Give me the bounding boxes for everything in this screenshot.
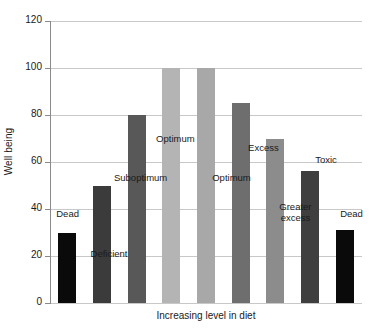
bar-annotation: Optimum xyxy=(156,133,195,144)
y-tick-label: 20 xyxy=(14,249,42,260)
bar xyxy=(301,171,319,303)
plot-area: DeadDeficientSuboptimumOptimumOptimumExc… xyxy=(50,21,362,303)
bar-annotation: Deficient xyxy=(91,248,128,259)
y-tick-label: 40 xyxy=(14,202,42,213)
bar xyxy=(336,230,354,303)
bar-chart: Well being 120100806040200 DeadDeficient… xyxy=(0,0,370,333)
bar-annotation: Greater excess xyxy=(279,201,311,223)
y-tick-label: 120 xyxy=(14,14,42,25)
bar xyxy=(162,68,180,303)
bar-annotation: Optimum xyxy=(212,172,251,183)
bar-annotation: Dead xyxy=(340,208,363,219)
bar xyxy=(232,103,250,303)
y-axis-title-text: Well being xyxy=(4,128,15,176)
y-tick-label: 0 xyxy=(14,296,42,307)
bar-annotation: Suboptimum xyxy=(114,172,167,183)
y-tick-label: 80 xyxy=(14,108,42,119)
bar xyxy=(197,68,215,303)
bar-annotation: Dead xyxy=(56,208,79,219)
bar-annotation: Toxic xyxy=(315,154,337,165)
bar xyxy=(128,115,146,303)
bar xyxy=(93,186,111,304)
bar xyxy=(58,233,76,304)
gridline xyxy=(50,303,362,304)
x-axis-title: Increasing level in diet xyxy=(50,310,362,321)
y-tick-label: 100 xyxy=(14,61,42,72)
y-tick-label: 60 xyxy=(14,155,42,166)
bar-annotation: Excess xyxy=(248,142,279,153)
